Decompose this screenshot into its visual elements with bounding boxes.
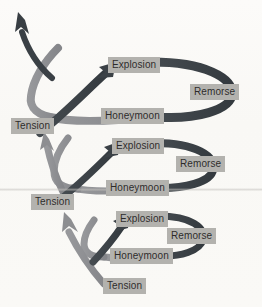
node-honeymoon-cycle2: Honeymoon	[106, 180, 169, 196]
node-remorse-cycle1: Remorse	[167, 228, 216, 244]
node-explosion-cycle1: Explosion	[116, 211, 168, 227]
node-remorse-cycle3: Remorse	[190, 84, 239, 100]
cycle-of-violence-diagram: Explosion Remorse Honeymoon Tension Expl…	[0, 0, 262, 307]
node-explosion-cycle3: Explosion	[108, 57, 160, 73]
node-tension-cycle1: Tension	[103, 278, 146, 294]
node-honeymoon-cycle3: Honeymoon	[101, 108, 164, 124]
node-remorse-cycle2: Remorse	[176, 156, 225, 172]
node-explosion-cycle2: Explosion	[112, 138, 164, 154]
node-honeymoon-cycle1: Honeymoon	[110, 248, 173, 264]
node-tension-cycle2: Tension	[31, 194, 74, 210]
node-tension-cycle3: Tension	[11, 118, 54, 134]
